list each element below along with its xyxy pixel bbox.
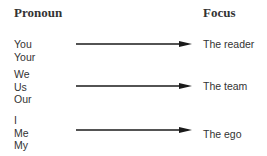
arrow-right-icon (76, 82, 192, 90)
pronoun: Our (14, 93, 32, 106)
pronoun: Your (14, 51, 35, 64)
arrow-right-icon (76, 126, 192, 134)
pronoun: Us (14, 81, 32, 94)
pronoun-header: Pronoun (14, 5, 62, 21)
pronoun: I (14, 114, 29, 127)
arrow-right-icon (76, 40, 192, 48)
focus-label-ego: The ego (203, 128, 242, 140)
pronoun-group-ego: I Me My (14, 114, 29, 152)
pronoun: We (14, 68, 32, 81)
focus-label-reader: The reader (203, 38, 254, 50)
focus-header: Focus (203, 5, 236, 21)
focus-label-team: The team (203, 80, 247, 92)
pronoun: Me (14, 127, 29, 140)
pronoun-group-reader: You Your (14, 38, 35, 63)
pronoun: You (14, 38, 35, 51)
pronoun-group-team: We Us Our (14, 68, 32, 106)
pronoun: My (14, 139, 29, 152)
